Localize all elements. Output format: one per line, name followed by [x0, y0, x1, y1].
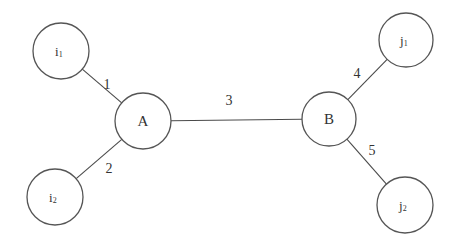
- edge-label-5: 5: [369, 143, 376, 158]
- edge-label-3: 3: [226, 93, 233, 108]
- edge-B-j2: [347, 139, 387, 184]
- node-label-B: B: [324, 111, 334, 127]
- node-B: B: [302, 92, 356, 146]
- edge-i2-A: [76, 139, 122, 178]
- node-i2: i2: [27, 169, 83, 225]
- node-j1: j1: [379, 13, 433, 67]
- network-diagram: i1i2ABj1j2 12345: [0, 0, 462, 243]
- node-label-A: A: [138, 113, 149, 129]
- node-j2: j2: [377, 177, 433, 233]
- edge-i1-A: [82, 69, 121, 103]
- nodes-layer: i1i2ABj1j2: [27, 13, 433, 233]
- edge-label-4: 4: [354, 66, 361, 81]
- node-i1: i1: [33, 23, 89, 79]
- edge-label-2: 2: [106, 161, 113, 176]
- edge-label-1: 1: [104, 77, 111, 92]
- node-A: A: [115, 93, 171, 149]
- edge-A-B: [171, 119, 302, 120]
